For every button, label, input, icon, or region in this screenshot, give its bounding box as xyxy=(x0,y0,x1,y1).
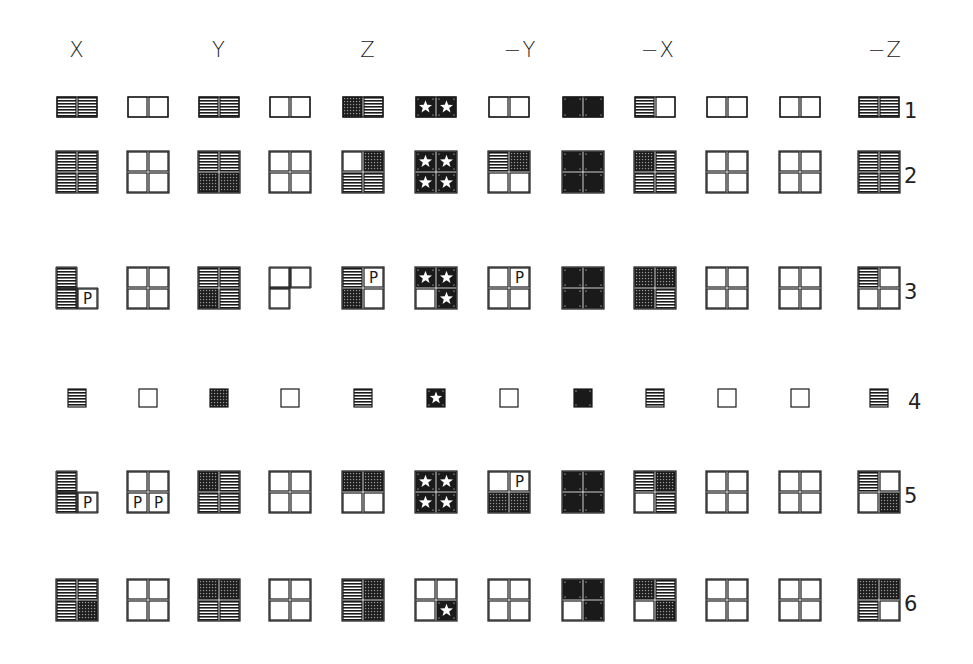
star-icon xyxy=(437,472,456,491)
empty-icon xyxy=(510,601,529,620)
pattern-tile xyxy=(857,578,901,622)
horizontal-hatch-icon xyxy=(870,389,888,407)
grid-hatch-icon xyxy=(199,289,218,308)
empty-icon xyxy=(139,389,157,407)
pattern-tile xyxy=(414,470,458,514)
horizontal-hatch-icon xyxy=(199,97,218,117)
pattern-tile xyxy=(633,150,677,194)
empty-icon xyxy=(707,601,726,620)
circle-icon xyxy=(584,152,603,171)
horizontal-hatch-icon xyxy=(859,173,878,192)
empty-icon xyxy=(270,289,289,308)
empty-icon xyxy=(880,289,899,308)
empty-icon xyxy=(128,97,147,117)
empty-icon xyxy=(291,472,310,491)
empty-icon xyxy=(270,472,289,491)
grid-hatch-icon xyxy=(859,580,878,599)
pattern-tile xyxy=(498,387,520,409)
pattern-tile xyxy=(268,266,312,310)
grid-hatch-icon xyxy=(880,580,899,599)
pattern-tile: P xyxy=(487,266,531,310)
empty-icon xyxy=(510,97,529,117)
empty-icon xyxy=(707,152,726,171)
empty-icon xyxy=(859,493,878,512)
horizontal-hatch-icon xyxy=(489,152,508,171)
grid-hatch-icon xyxy=(343,289,362,308)
empty-icon xyxy=(270,580,289,599)
horizontal-hatch-icon xyxy=(220,152,239,171)
empty-icon xyxy=(291,152,310,171)
empty-icon xyxy=(291,268,310,287)
empty-icon xyxy=(801,580,820,599)
pattern-tile xyxy=(778,266,822,310)
star-icon xyxy=(437,152,456,171)
horizontal-hatch-icon xyxy=(57,601,76,620)
pattern-tile xyxy=(778,470,822,514)
empty-icon xyxy=(728,268,747,287)
empty-icon xyxy=(437,580,456,599)
empty-icon xyxy=(270,152,289,171)
pattern-tile xyxy=(197,150,241,194)
pattern-tile xyxy=(487,578,531,622)
grid-hatch-icon xyxy=(220,173,239,192)
svg-text:P: P xyxy=(369,269,378,287)
pattern-tile xyxy=(126,150,170,194)
empty-icon xyxy=(728,97,747,117)
empty-icon xyxy=(707,173,726,192)
circle-icon xyxy=(584,289,603,308)
empty-icon xyxy=(270,97,289,117)
svg-text:P: P xyxy=(515,473,524,491)
empty-icon xyxy=(364,493,383,512)
pattern-tile xyxy=(633,470,677,514)
grid-hatch-icon xyxy=(364,580,383,599)
pattern-tile xyxy=(425,387,447,409)
horizontal-hatch-icon xyxy=(635,173,654,192)
empty-icon xyxy=(780,152,799,171)
star-icon xyxy=(416,268,435,287)
circle-icon xyxy=(584,268,603,287)
empty-icon xyxy=(500,389,518,407)
grid-hatch-icon xyxy=(656,268,675,287)
pattern-tile: P xyxy=(341,266,385,310)
horizontal-hatch-icon xyxy=(220,289,239,308)
pattern-tile xyxy=(66,387,88,409)
star-icon xyxy=(416,173,435,192)
grid-hatch-icon xyxy=(510,493,529,512)
horizontal-hatch-icon xyxy=(343,601,362,620)
grid-hatch-icon xyxy=(880,493,899,512)
pattern-tile xyxy=(414,266,458,310)
pattern-tile xyxy=(197,470,241,514)
letter-p-icon: P xyxy=(510,472,529,491)
pattern-tile xyxy=(778,578,822,622)
empty-icon xyxy=(707,580,726,599)
empty-icon xyxy=(416,289,435,308)
horizontal-hatch-icon xyxy=(57,493,76,512)
grid-hatch-icon xyxy=(343,472,362,491)
circle-icon xyxy=(584,493,603,512)
empty-icon xyxy=(707,289,726,308)
empty-icon xyxy=(128,289,147,308)
empty-icon xyxy=(880,601,899,620)
circle-icon xyxy=(584,173,603,192)
horizontal-hatch-icon xyxy=(635,472,654,491)
pattern-tile xyxy=(55,150,99,194)
circle-icon xyxy=(584,580,603,599)
circle-icon xyxy=(563,493,582,512)
pattern-tile xyxy=(705,470,749,514)
horizontal-hatch-icon xyxy=(57,173,76,192)
column-header: X xyxy=(69,38,84,62)
empty-icon xyxy=(780,97,799,117)
horizontal-hatch-icon xyxy=(78,580,97,599)
pattern-tile xyxy=(857,470,901,514)
empty-icon xyxy=(859,289,878,308)
grid-hatch-icon xyxy=(343,97,362,117)
pattern-tile xyxy=(197,578,241,622)
star-icon xyxy=(437,493,456,512)
pattern-tile xyxy=(716,387,738,409)
grid-hatch-icon xyxy=(510,152,529,171)
grid-hatch-icon xyxy=(199,580,218,599)
pattern-tile xyxy=(857,266,901,310)
letter-p-icon: P xyxy=(78,289,97,308)
horizontal-hatch-icon xyxy=(880,152,899,171)
empty-icon xyxy=(635,493,654,512)
